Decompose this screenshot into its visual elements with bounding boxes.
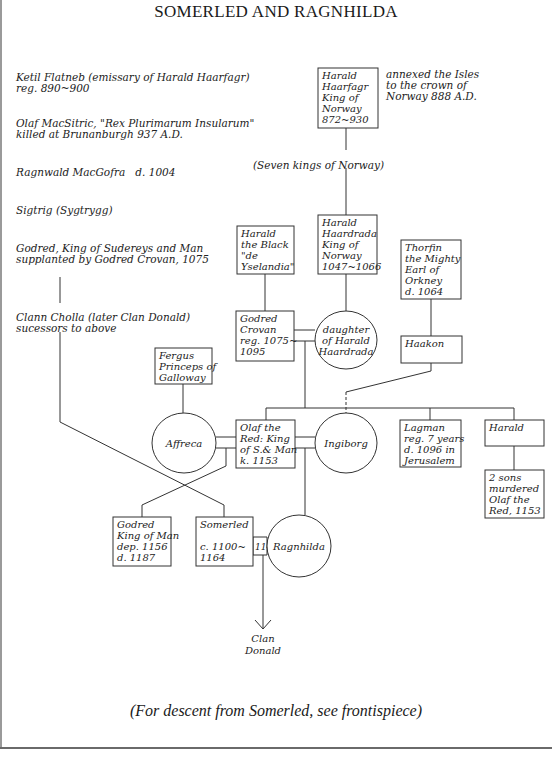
svg-text:Crovan: Crovan (240, 324, 277, 335)
svg-text:Harald: Harald (240, 228, 276, 239)
clan-donald-label: Clan Donald (244, 633, 281, 656)
box-harald-the-black: Haraldthe Black"deYselandia" (237, 226, 294, 274)
svg-text:Harald: Harald (488, 422, 524, 433)
family-tree-diagram: 1140 HaraldHaarfagrKing ofNorway872~930H… (0, 0, 552, 760)
box-harald: Harald (485, 420, 544, 446)
oval-daughter-of-harald-haardrada: daughterof HaraldHaardrada (315, 311, 377, 369)
svg-text:the Mighty: the Mighty (405, 253, 461, 264)
svg-text:Thorfin: Thorfin (405, 242, 442, 253)
svg-text:Norway: Norway (321, 250, 362, 261)
box-two-sons: 2 sonsmurderedOlaf theRed, 1153 (485, 470, 544, 518)
svg-text:reg. 1075~: reg. 1075~ (240, 335, 297, 346)
svg-text:reg. 7 years: reg. 7 years (404, 433, 464, 444)
svg-text:Red, 1153: Red, 1153 (488, 505, 541, 516)
svg-text:d. 1096 in: d. 1096 in (404, 444, 455, 455)
svg-text:Harald: Harald (321, 70, 357, 81)
box-somerled: Somerledc. 1100~1164 (196, 517, 253, 566)
svg-text:Earl of: Earl of (404, 264, 441, 275)
svg-text:1047~1066: 1047~1066 (322, 261, 382, 272)
svg-text:King of Man: King of Man (116, 530, 179, 541)
svg-text:1095: 1095 (240, 346, 265, 357)
svg-text:Princeps of: Princeps of (158, 361, 218, 372)
svg-text:Haarfagr: Haarfagr (321, 81, 369, 92)
svg-text:daughter: daughter (323, 324, 371, 335)
svg-text:"de: "de (241, 250, 258, 261)
svg-text:Olaf the: Olaf the (489, 494, 530, 505)
box-harald-haarfagr: HaraldHaarfagrKing ofNorway872~930 (318, 68, 378, 128)
svg-text:1164: 1164 (200, 552, 225, 563)
box-olaf-the-red: Olaf theRed: Kingof S.& Mank. 1153 (236, 420, 297, 468)
svg-text:Haakon: Haakon (404, 338, 444, 349)
svg-text:Olaf the: Olaf the (240, 422, 281, 433)
svg-text:of S.& Man: of S.& Man (240, 444, 297, 455)
svg-text:d. 1064: d. 1064 (405, 286, 443, 297)
svg-text:872~930: 872~930 (322, 114, 369, 125)
genealogy-page: SOMERLED AND RAGNHILDA Ketil Flatneb (em… (0, 0, 552, 760)
box-lagman: Lagmanreg. 7 yearsd. 1096 inJerusalem (400, 420, 464, 467)
svg-text:c. 1100~: c. 1100~ (200, 541, 246, 552)
svg-text:Ragnhilda: Ragnhilda (272, 541, 325, 552)
svg-text:Somerled: Somerled (200, 519, 249, 530)
svg-text:Haardrada: Haardrada (321, 228, 377, 239)
svg-text:d. 1187: d. 1187 (117, 552, 156, 563)
box-thorfin-the-mighty: Thorfinthe MightyEarl ofOrkneyd. 1064 (401, 240, 461, 299)
svg-text:Orkney: Orkney (405, 275, 442, 286)
svg-text:2 sons: 2 sons (488, 472, 521, 483)
svg-text:k. 1153: k. 1153 (240, 455, 278, 466)
oval-ragnhilda: Ragnhilda (267, 515, 331, 577)
svg-text:Harald: Harald (321, 217, 357, 228)
svg-text:the Black: the Black (241, 239, 289, 250)
svg-text:Clan: Clan (251, 633, 274, 644)
svg-text:King of: King of (321, 92, 361, 103)
box-godred-king-of-man: GodredKing of Mandep. 1156d. 1187 (113, 517, 179, 566)
svg-text:Jerusalem: Jerusalem (402, 455, 455, 466)
svg-text:Fergus: Fergus (158, 350, 194, 361)
svg-text:Affreca: Affreca (165, 438, 203, 449)
footer-note: (For descent from Somerled, see frontisp… (0, 702, 552, 720)
svg-text:Godred: Godred (240, 313, 278, 324)
oval-ingiborg: Ingiborg (315, 413, 377, 473)
box-haakon: Haakon (401, 336, 462, 363)
svg-text:dep. 1156: dep. 1156 (117, 541, 168, 552)
svg-text:Lagman: Lagman (403, 422, 445, 433)
svg-text:Galloway: Galloway (159, 372, 206, 383)
svg-text:Red: King: Red: King (239, 433, 290, 444)
box-harald-haardrada: HaraldHaardradaKing ofNorway1047~1066 (318, 215, 382, 274)
svg-text:Norway: Norway (321, 103, 362, 114)
svg-text:King of: King of (321, 239, 361, 250)
box-godred-crovan: GodredCrovanreg. 1075~1095 (236, 311, 297, 361)
svg-text:Yselandia": Yselandia" (241, 261, 294, 272)
svg-text:murdered: murdered (489, 483, 539, 494)
box-fergus: FergusPrinceps ofGalloway (155, 348, 218, 384)
svg-text:Haardrada: Haardrada (318, 346, 374, 357)
svg-text:Ingiborg: Ingiborg (323, 438, 368, 449)
svg-text:Godred: Godred (117, 519, 155, 530)
svg-text:Donald: Donald (244, 645, 281, 656)
svg-text:of Harald: of Harald (322, 335, 370, 346)
oval-affreca: Affreca (152, 413, 216, 473)
